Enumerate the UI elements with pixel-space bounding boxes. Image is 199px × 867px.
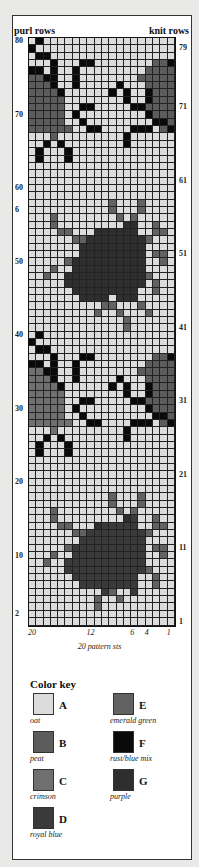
chart-cell — [73, 244, 80, 251]
chart-cell — [109, 317, 116, 324]
chart-cell — [160, 104, 167, 111]
chart-cell — [58, 229, 65, 236]
chart-cell — [80, 339, 87, 346]
chart-cell — [102, 427, 109, 434]
chart-cell — [73, 398, 80, 405]
chart-cell — [109, 515, 116, 522]
chart-cell — [138, 486, 145, 493]
chart-cell — [73, 141, 80, 148]
chart-cell — [102, 163, 109, 170]
color-letter: C — [59, 775, 67, 787]
chart-cell — [138, 60, 145, 67]
chart-cell — [102, 156, 109, 163]
chart-cell — [153, 207, 160, 214]
chart-cell — [102, 471, 109, 478]
chart-cell — [146, 567, 153, 574]
chart-cell — [29, 251, 36, 258]
chart-cell — [168, 354, 175, 361]
chart-cell — [80, 618, 87, 625]
color-swatch — [33, 731, 54, 753]
chart-cell — [73, 266, 80, 273]
chart-cell — [80, 75, 87, 82]
chart-cell — [95, 383, 102, 390]
chart-cell — [44, 97, 51, 104]
chart-cell — [153, 178, 160, 185]
chart-cell — [80, 258, 87, 265]
chart-cell — [168, 559, 175, 566]
chart-cell — [44, 266, 51, 273]
chart-cell — [138, 567, 145, 574]
chart-cell — [168, 185, 175, 192]
chart-cell — [58, 508, 65, 515]
chart-cell — [131, 45, 138, 52]
chart-cell — [51, 405, 58, 412]
chart-cell — [87, 280, 94, 287]
chart-cell — [44, 119, 51, 126]
chart-cell — [109, 295, 116, 302]
chart-cell — [65, 295, 72, 302]
chart-cell — [131, 75, 138, 82]
chart-cell — [95, 442, 102, 449]
chart-cell — [146, 581, 153, 588]
chart-cell — [36, 457, 43, 464]
chart-cell — [87, 302, 94, 309]
chart-cell — [168, 530, 175, 537]
chart-cell — [131, 435, 138, 442]
chart-cell — [109, 493, 116, 500]
chart-cell — [95, 346, 102, 353]
chart-cell — [73, 567, 80, 574]
chart-cell — [44, 89, 51, 96]
chart-cell — [131, 464, 138, 471]
chart-cell — [124, 530, 131, 537]
chart-cell — [117, 559, 124, 566]
chart-cell — [102, 581, 109, 588]
chart-cell — [36, 141, 43, 148]
chart-cell — [109, 596, 116, 603]
chart-cell — [36, 53, 43, 60]
chart-cell — [146, 75, 153, 82]
chart-cell — [138, 442, 145, 449]
chart-cell — [80, 368, 87, 375]
chart-cell — [153, 111, 160, 118]
chart-cell — [80, 391, 87, 398]
chart-cell — [80, 251, 87, 258]
chart-cell — [117, 156, 124, 163]
chart-cell — [109, 258, 116, 265]
chart-cell — [44, 236, 51, 243]
chart-cell — [51, 596, 58, 603]
chart-cell — [146, 317, 153, 324]
chart-cell — [102, 368, 109, 375]
chart-cell — [102, 574, 109, 581]
chart-cell — [80, 567, 87, 574]
chart-cell — [95, 75, 102, 82]
chart-cell — [160, 156, 167, 163]
chart-cell — [29, 383, 36, 390]
chart-cell — [51, 515, 58, 522]
chart-cell — [73, 486, 80, 493]
chart-cell — [102, 317, 109, 324]
chart-cell — [36, 156, 43, 163]
chart-cell — [73, 332, 80, 339]
chart-cell — [36, 405, 43, 412]
chart-cell — [36, 383, 43, 390]
chart-cell — [117, 457, 124, 464]
chart-cell — [65, 126, 72, 133]
chart-cell — [58, 302, 65, 309]
chart-cell — [51, 346, 58, 353]
chart-cell — [80, 89, 87, 96]
chart-cell — [131, 515, 138, 522]
color-name: purple — [110, 792, 131, 801]
chart-cell — [160, 214, 167, 221]
chart-cell — [65, 391, 72, 398]
chart-cell — [117, 170, 124, 177]
chart-cell — [51, 479, 58, 486]
purl-row-number: 6 — [15, 205, 19, 214]
chart-cell — [51, 354, 58, 361]
chart-cell — [36, 361, 43, 368]
chart-cell — [153, 486, 160, 493]
chart-cell — [146, 479, 153, 486]
chart-cell — [117, 236, 124, 243]
chart-cell — [168, 170, 175, 177]
chart-cell — [117, 317, 124, 324]
chart-cell — [109, 302, 116, 309]
